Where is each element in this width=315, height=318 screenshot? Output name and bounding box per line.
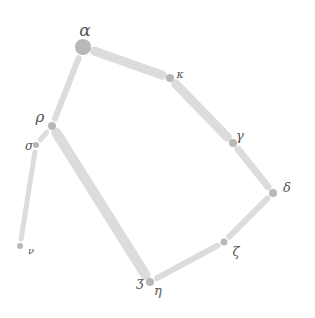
edge-alpha-kappa [94,51,162,75]
edge-rho-sigma [41,132,47,140]
edges-layer [21,51,268,278]
edge-rho-alpha [55,58,79,118]
node-label-zeta: ζ [232,244,240,259]
node-label-kappa: κ [175,68,184,81]
node-alpha [75,39,91,55]
node-rho [48,122,56,130]
node-label-sigma: σ [25,139,34,153]
edge-sigma-nu [21,152,35,239]
node-label-delta: δ [283,180,291,195]
node-label-gamma: γ [236,128,244,143]
node-label-nu: ν [28,245,34,256]
node-nu [17,243,23,249]
node-label-rho: ρ [35,108,45,126]
node-delta [269,189,277,197]
edge-zeta-eta [157,246,217,279]
labels-layer: ακγδζηʒρσν [25,20,291,298]
node-label-eta: η [154,283,162,298]
node-label-ezh: ʒ [135,274,144,289]
edge-gamma-delta [238,149,268,187]
edge-eta-rho [56,133,145,275]
graph-diagram: ακγδζηʒρσν [0,0,315,318]
node-eta [146,278,154,286]
node-zeta [221,239,228,246]
edge-delta-zeta [229,199,267,237]
edge-kappa-gamma [176,84,228,138]
node-kappa [166,74,174,82]
node-label-alpha: α [79,20,91,40]
node-sigma [33,142,39,148]
